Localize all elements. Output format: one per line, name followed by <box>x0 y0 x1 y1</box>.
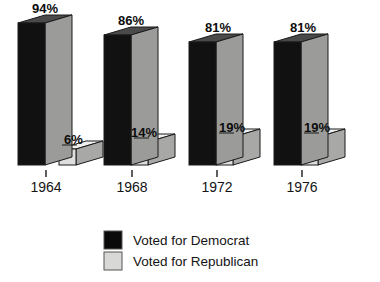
value-label-democrat: 94% <box>32 1 58 16</box>
chart-container: 94% 6% 1964 86% 14% 1968 <box>0 0 380 282</box>
bar-front-face <box>104 35 131 165</box>
bar-side-face <box>301 34 328 165</box>
grouped-bar-chart: 94% 6% 1964 86% 14% 1968 <box>0 0 380 282</box>
value-label-republican: 19% <box>219 120 245 135</box>
bar-democrat-1972[interactable] <box>189 34 243 165</box>
value-label-republican: 14% <box>131 125 157 140</box>
bar-side-face <box>131 27 158 165</box>
axis-label-year: 1968 <box>116 179 147 195</box>
legend-swatch-democrat <box>104 231 122 249</box>
bar-front-face <box>18 23 45 165</box>
axis-label-year: 1976 <box>286 179 317 195</box>
axis-label-year: 1972 <box>201 179 232 195</box>
legend-label-democrat: Voted for Democrat <box>133 233 250 248</box>
bar-front-face <box>274 42 301 165</box>
value-label-republican: 6% <box>64 132 83 147</box>
bar-democrat-1968[interactable] <box>104 27 158 165</box>
value-label-democrat: 81% <box>290 20 316 35</box>
value-label-democrat: 81% <box>205 20 231 35</box>
value-label-democrat: 86% <box>118 13 144 28</box>
bar-front-face <box>189 42 216 165</box>
legend-label-republican: Voted for Republican <box>133 254 258 269</box>
value-label-republican: 19% <box>304 120 330 135</box>
bar-democrat-1976[interactable] <box>274 34 328 165</box>
bar-side-face <box>216 34 243 165</box>
legend-swatch-republican <box>104 252 122 270</box>
axis-label-year: 1964 <box>30 179 61 195</box>
